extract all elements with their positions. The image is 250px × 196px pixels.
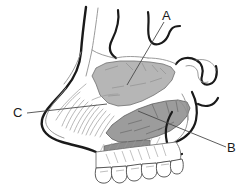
superior-turbinate-shading: [92, 61, 175, 106]
nasal-cavity-illustration: [0, 0, 250, 196]
label-b: B: [227, 141, 236, 154]
anatomical-figure: A B C: [0, 0, 250, 196]
shaded-regions: [92, 61, 190, 151]
label-c: C: [13, 106, 22, 119]
label-a: A: [162, 9, 171, 22]
